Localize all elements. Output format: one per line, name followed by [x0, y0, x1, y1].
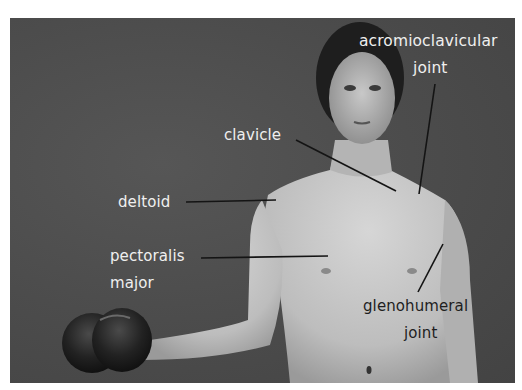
label-acromioclavicular-joint: joint — [413, 59, 448, 77]
label-pectoralis-major: major — [110, 274, 154, 292]
label-clavicle: clavicle — [224, 126, 281, 144]
label-pectoralis: pectoralis — [110, 247, 185, 265]
left-arm — [140, 200, 283, 360]
anatomy-photo: acromioclavicular joint clavicle deltoid… — [10, 18, 515, 383]
label-deltoid: deltoid — [118, 193, 170, 211]
face — [329, 52, 395, 144]
dumbbell-icon — [62, 308, 152, 373]
label-glenohumeral-joint: joint — [404, 324, 437, 342]
label-acromioclavicular: acromioclavicular — [359, 32, 497, 50]
neck — [330, 140, 392, 177]
label-glenohumeral: glenohumeral — [363, 297, 468, 315]
